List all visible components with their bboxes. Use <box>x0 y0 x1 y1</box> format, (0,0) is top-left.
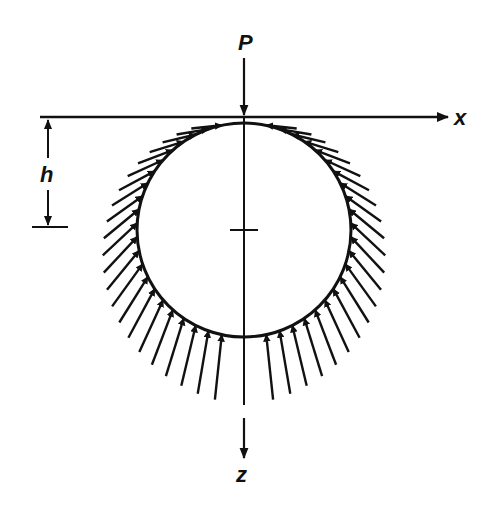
traction-arrow <box>351 223 385 255</box>
traction-arrow <box>345 264 376 306</box>
traction-arrow <box>166 318 184 376</box>
traction-arrow <box>266 335 273 400</box>
traction-arrow <box>112 264 143 306</box>
contact-diagram: x P z h <box>0 0 493 513</box>
traction-arrow <box>103 223 137 255</box>
traction-arrow <box>215 335 222 400</box>
depth-label: h <box>40 162 53 187</box>
traction-arrow <box>119 277 148 323</box>
traction-arrow <box>340 277 369 323</box>
traction-arrow <box>333 289 359 338</box>
traction-arrow <box>351 237 384 273</box>
z-axis-label: z <box>235 462 247 487</box>
traction-arrow <box>304 318 322 376</box>
traction-arrow <box>280 331 291 394</box>
traction-arrow <box>104 209 139 238</box>
traction-arrow <box>181 326 195 386</box>
traction-arrow <box>128 289 154 338</box>
load-label: P <box>238 30 253 55</box>
traction-arrow <box>349 209 384 238</box>
traction-arrow <box>107 251 139 290</box>
traction-arrow <box>349 251 381 290</box>
traction-arrow <box>198 331 209 394</box>
traction-arrow <box>104 237 137 273</box>
x-axis-label: x <box>453 105 467 130</box>
traction-arrow <box>292 326 306 386</box>
